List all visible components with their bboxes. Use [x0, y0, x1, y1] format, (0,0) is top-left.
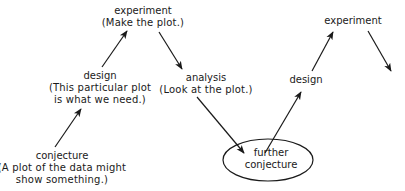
node-further-conjecture-line2: conjecture [245, 159, 298, 171]
node-analysis-note: (Look at the plot.) [159, 84, 252, 96]
node-further-conjecture: further conjecture [245, 147, 298, 171]
node-conjecture-note-line1: (A plot of the data might [0, 162, 126, 174]
node-analysis: analysis (Look at the plot.) [159, 72, 252, 96]
arrow-conjecture-to-design [55, 109, 81, 147]
node-design-right-title: design [289, 74, 322, 86]
node-design-note-line2: is what we need.) [49, 94, 151, 106]
node-design: design (This particular plot is what we … [49, 70, 151, 106]
arrow-experiment-to-analysis [159, 32, 182, 69]
node-experiment: experiment (Make the plot.) [102, 5, 184, 29]
node-experiment-note: (Make the plot.) [102, 17, 184, 29]
arrow-design-to-experiment [102, 31, 127, 67]
arrow-design-to-experiment-right [312, 32, 333, 71]
iterative-process-diagram: experiment (Make the plot.) design (This… [0, 0, 405, 191]
node-conjecture-title: conjecture [0, 150, 126, 162]
node-experiment-right: experiment [324, 15, 381, 27]
node-design-note-line1: (This particular plot [49, 82, 151, 94]
node-design-right: design [289, 74, 322, 86]
node-conjecture: conjecture (A plot of the data might sho… [0, 150, 126, 186]
node-further-conjecture-line1: further [245, 147, 298, 159]
node-design-title: design [49, 70, 151, 82]
node-experiment-title: experiment [102, 5, 184, 17]
node-conjecture-note-line2: show something.) [0, 174, 126, 186]
node-experiment-right-title: experiment [324, 15, 381, 27]
node-analysis-title: analysis [159, 72, 252, 84]
arrow-experiment-continuation [368, 31, 391, 71]
